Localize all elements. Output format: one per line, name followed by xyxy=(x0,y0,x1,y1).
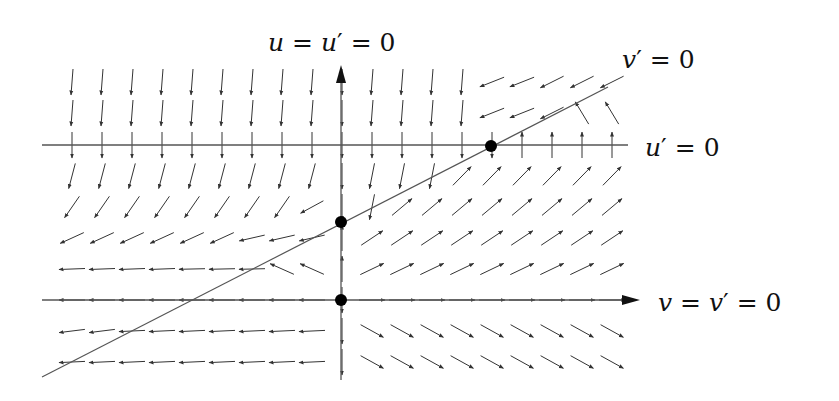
v-nullcline-label: v′ = 0 xyxy=(622,47,695,72)
phase-plane-plot xyxy=(0,0,839,401)
horizontal-axis-label: v = v′ = 0 xyxy=(658,290,782,315)
phase-portrait: u = u′ = 0 v′ = 0 u′ = 0 v = v′ = 0 u = … xyxy=(0,0,839,401)
vertical-axis-label: u = u′ = 0 xyxy=(268,30,396,55)
u-nullcline-label: u′ = 0 xyxy=(645,135,720,160)
equilibrium-points xyxy=(335,140,497,306)
